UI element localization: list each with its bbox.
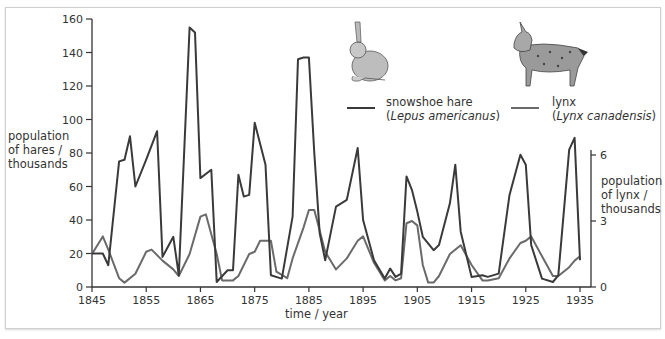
left-axis-label-line: thousands	[8, 157, 69, 171]
left-tick-label: 40	[69, 214, 83, 227]
right-axis-label-line: of lynx /	[601, 188, 662, 202]
chart-plot: 020406080100120140160 036 18451855186518…	[0, 0, 665, 339]
left-tick-label: 100	[62, 114, 83, 127]
x-tick-label: 1895	[349, 294, 377, 307]
x-tick-label: 1915	[458, 294, 486, 307]
right-tick-label: 0	[600, 281, 607, 294]
left-tick-label: 80	[69, 147, 83, 160]
lynx-common-name: lynx	[552, 95, 656, 109]
right-tick-label: 3	[600, 215, 607, 228]
left-tick-label: 60	[69, 181, 83, 194]
lynx-icon	[514, 22, 588, 86]
x-tick-label: 1885	[295, 294, 323, 307]
x-tick-label: 1865	[186, 294, 214, 307]
lynx-legend-label: lynx (Lynx canadensis)	[552, 95, 656, 123]
x-axis-ticks: 1845185518651875188518951905191519251935	[78, 287, 594, 307]
hare-series-line	[92, 27, 580, 282]
left-tick-label: 120	[62, 80, 83, 93]
left-axis-label-line: of hares /	[8, 143, 69, 157]
right-tick-label: 6	[600, 149, 607, 162]
lynx-scientific-name: Lynx canadensis	[557, 109, 652, 123]
x-tick-label: 1935	[566, 294, 594, 307]
left-tick-label: 20	[69, 248, 83, 261]
right-axis-label-line: thousands	[601, 202, 662, 216]
hare-legend-label: snowshoe hare (Lepus americanus)	[386, 95, 500, 123]
lynx-legend-swatch	[511, 107, 539, 109]
left-tick-label: 0	[76, 281, 83, 294]
left-tick-label: 160	[62, 13, 83, 26]
hare-scientific-name: Lepus americanus	[391, 109, 496, 123]
x-tick-label: 1925	[512, 294, 540, 307]
hare-icon	[350, 22, 388, 81]
right-axis-ticks: 036	[591, 149, 607, 294]
right-axis-label-line: population	[601, 174, 662, 188]
x-tick-label: 1845	[78, 294, 106, 307]
x-tick-label: 1875	[241, 294, 269, 307]
left-axis-label-line: population	[8, 129, 69, 143]
x-axis-label: time / year	[285, 307, 348, 321]
hare-common-name: snowshoe hare	[386, 95, 500, 109]
right-axis-label: population of lynx / thousands	[601, 174, 662, 216]
x-tick-label: 1855	[132, 294, 160, 307]
left-tick-label: 140	[62, 47, 83, 60]
left-axis-label: population of hares / thousands	[8, 129, 69, 171]
x-tick-label: 1905	[403, 294, 431, 307]
hare-legend-swatch	[347, 107, 375, 109]
